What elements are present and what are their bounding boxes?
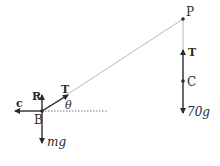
label-T-B: T	[61, 83, 70, 96]
force-diagram: P C B R T c mg θ T 70g	[0, 0, 220, 166]
label-C: C	[187, 75, 196, 89]
label-P: P	[186, 5, 194, 19]
label-theta: θ	[65, 99, 72, 112]
label-mg: mg	[47, 135, 66, 149]
label-T-C: T	[188, 46, 197, 59]
point-C	[181, 79, 185, 83]
label-B: B	[34, 113, 43, 127]
label-70g: 70g	[187, 105, 210, 119]
point-P	[181, 17, 185, 21]
label-R: R	[32, 90, 42, 103]
label-c: c	[16, 97, 23, 110]
